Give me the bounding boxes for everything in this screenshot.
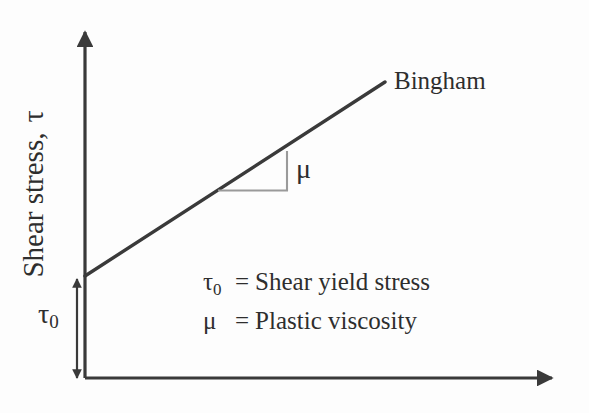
bingham-curve-line <box>85 82 385 276</box>
slope-label-mu: μ <box>296 155 311 183</box>
legend-symbol-mu: μ <box>203 307 233 335</box>
legend-description-yield-stress: Shear yield stress <box>255 268 430 295</box>
legend-equals-sign-1: = <box>233 268 255 296</box>
curve-label-bingham: Bingham <box>394 68 486 93</box>
yield-stress-label: τ0 <box>38 300 59 331</box>
diagram-canvas <box>0 0 589 413</box>
bingham-plastic-diagram: Shear stress,τ Bingham μ τ0 τ0=Shear yie… <box>0 0 589 413</box>
legend-description-plastic-viscosity: Plastic viscosity <box>255 307 417 334</box>
yield-stress-symbol: τ <box>38 298 49 329</box>
yield-stress-subscript: 0 <box>49 311 59 332</box>
legend-entry-yield-stress: τ0=Shear yield stress <box>203 268 430 300</box>
legend-symbol-tau0: τ0 <box>203 268 233 300</box>
y-axis-title-text: Shear stress, <box>17 133 49 278</box>
legend-equals-sign-2: = <box>233 307 255 335</box>
legend-entry-plastic-viscosity: μ=Plastic viscosity <box>203 307 417 335</box>
y-axis-tau-icon: τ <box>16 110 49 132</box>
